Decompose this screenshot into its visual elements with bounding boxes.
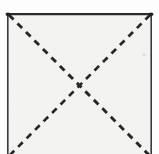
square-diagonals-figure xyxy=(0,0,159,154)
figure-container: Square with dashed diagonals Scanned lin… xyxy=(0,0,159,154)
scan-speck-artifact xyxy=(143,54,146,57)
